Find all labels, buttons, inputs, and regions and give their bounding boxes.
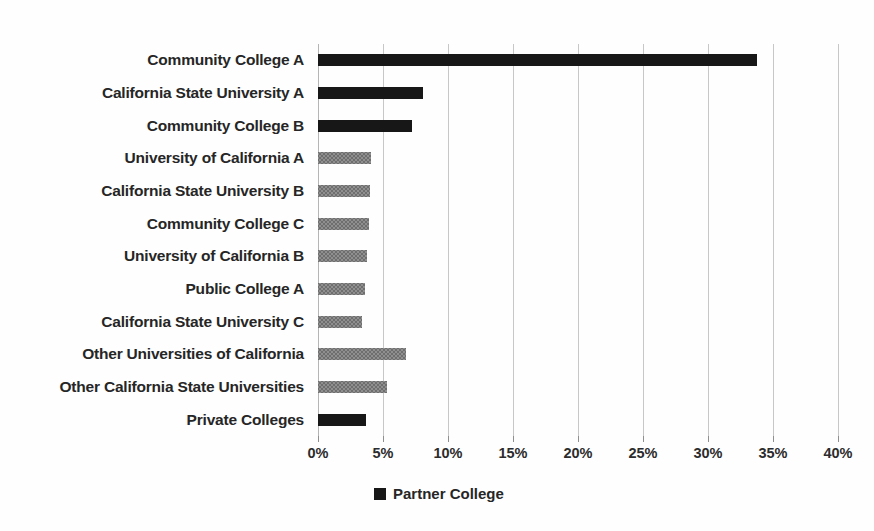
bar-california-state-university-b	[318, 185, 370, 197]
chart-row-other-universities-of-california: Other Universities of California	[0, 338, 874, 371]
bar-community-college-b	[318, 120, 412, 132]
partner-college-bar-chart: Community College ACalifornia State Univ…	[0, 0, 874, 531]
chart-row-california-state-university-b: California State University B	[0, 175, 874, 208]
category-label-university-of-california-a: University of California A	[0, 149, 318, 167]
bar-track-private-colleges	[318, 403, 874, 436]
tick-mark-5pct	[383, 436, 384, 442]
category-label-california-state-university-b: California State University B	[0, 182, 318, 200]
x-tick-label-0pct: 0%	[308, 445, 329, 461]
bar-track-community-college-a	[318, 44, 874, 77]
category-label-community-college-c: Community College C	[0, 215, 318, 233]
bar-track-university-of-california-b	[318, 240, 874, 273]
x-tick-label-30pct: 30%	[693, 445, 722, 461]
bar-community-college-a	[318, 54, 757, 66]
chart-row-community-college-a: Community College A	[0, 44, 874, 77]
bar-track-public-college-a	[318, 273, 874, 306]
chart-row-other-california-state-universities: Other California State Universities	[0, 371, 874, 404]
tick-mark-20pct	[578, 436, 579, 442]
bar-california-state-university-a	[318, 87, 423, 99]
category-label-community-college-a: Community College A	[0, 51, 318, 69]
x-tick-label-5pct: 5%	[373, 445, 394, 461]
scanned-chart-page: Community College ACalifornia State Univ…	[0, 0, 874, 531]
category-label-other-universities-of-california: Other Universities of California	[0, 345, 318, 363]
tick-mark-30pct	[708, 436, 709, 442]
tick-mark-10pct	[448, 436, 449, 442]
bar-california-state-university-c	[318, 316, 362, 328]
chart-row-university-of-california-b: University of California B	[0, 240, 874, 273]
bar-track-california-state-university-c	[318, 305, 874, 338]
category-label-university-of-california-b: University of California B	[0, 247, 318, 265]
x-tick-label-40pct: 40%	[823, 445, 852, 461]
legend-swatch-partner-college	[374, 488, 386, 500]
category-label-california-state-university-a: California State University A	[0, 84, 318, 102]
bar-university-of-california-a	[318, 152, 371, 164]
bar-public-college-a	[318, 283, 365, 295]
bar-track-university-of-california-a	[318, 142, 874, 175]
tick-mark-35pct	[773, 436, 774, 442]
legend: Partner College	[374, 485, 504, 502]
x-tick-label-35pct: 35%	[758, 445, 787, 461]
chart-row-private-colleges: Private Colleges	[0, 403, 874, 436]
chart-row-california-state-university-a: California State University A	[0, 77, 874, 110]
chart-row-california-state-university-c: California State University C	[0, 305, 874, 338]
chart-row-community-college-b: Community College B	[0, 109, 874, 142]
x-tick-label-15pct: 15%	[498, 445, 527, 461]
bar-private-colleges	[318, 414, 366, 426]
x-tick-label-25pct: 25%	[628, 445, 657, 461]
chart-row-university-of-california-a: University of California A	[0, 142, 874, 175]
category-label-community-college-b: Community College B	[0, 117, 318, 135]
bar-track-other-universities-of-california	[318, 338, 874, 371]
bar-community-college-c	[318, 218, 369, 230]
bar-track-california-state-university-b	[318, 175, 874, 208]
bar-other-universities-of-california	[318, 348, 406, 360]
legend-label: Partner College	[393, 485, 504, 502]
tick-mark-40pct	[838, 436, 839, 442]
tick-mark-15pct	[513, 436, 514, 442]
category-label-california-state-university-c: California State University C	[0, 313, 318, 331]
bar-track-community-college-b	[318, 109, 874, 142]
x-axis: 0%5%10%15%20%25%30%35%40%	[318, 445, 842, 463]
tick-mark-25pct	[643, 436, 644, 442]
bar-university-of-california-b	[318, 250, 367, 262]
tick-mark-0pct	[318, 436, 319, 442]
bar-track-other-california-state-universities	[318, 371, 874, 404]
chart-rows: Community College ACalifornia State Univ…	[0, 44, 874, 436]
chart-row-public-college-a: Public College A	[0, 273, 874, 306]
bar-track-california-state-university-a	[318, 77, 874, 110]
category-label-public-college-a: Public College A	[0, 280, 318, 298]
x-tick-label-10pct: 10%	[433, 445, 462, 461]
category-label-private-colleges: Private Colleges	[0, 411, 318, 429]
chart-row-community-college-c: Community College C	[0, 207, 874, 240]
bar-track-community-college-c	[318, 207, 874, 240]
category-label-other-california-state-universities: Other California State Universities	[0, 378, 318, 396]
x-tick-label-20pct: 20%	[563, 445, 592, 461]
bar-other-california-state-universities	[318, 381, 387, 393]
